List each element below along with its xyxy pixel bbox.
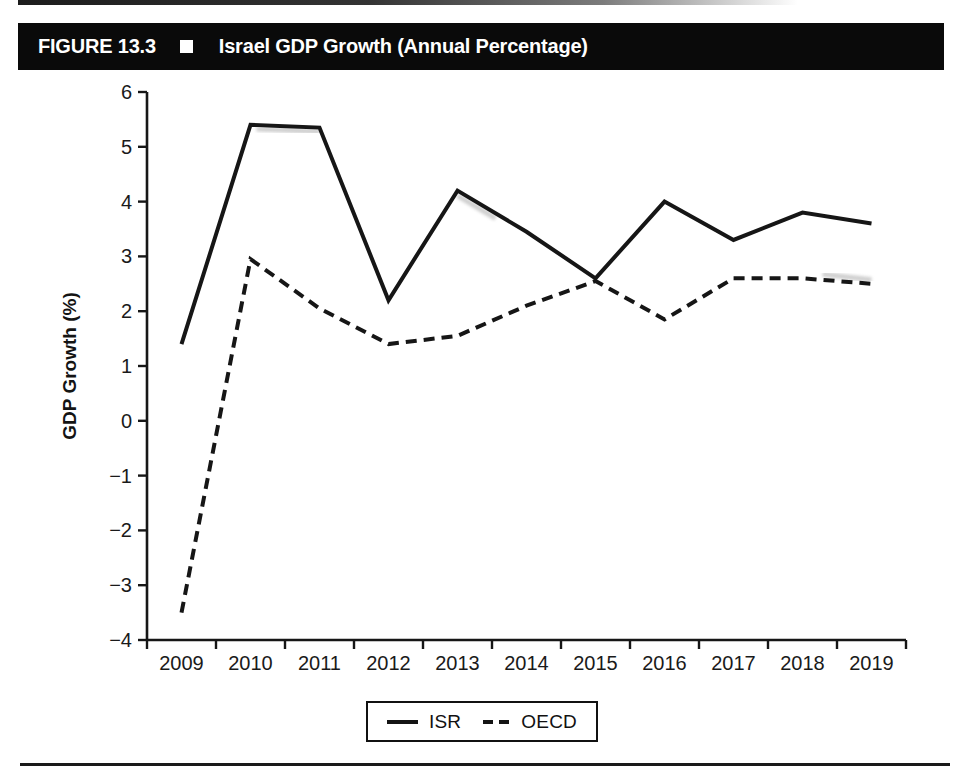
oecd-series-line [182,259,872,612]
y-tick-label: −1 [109,465,132,487]
chart-legend: ISR OECD [366,701,598,742]
x-tick-label: 2011 [298,652,341,674]
x-tick-label: 2013 [435,652,480,674]
legend-label-isr: ISR [429,711,461,733]
legend-label-oecd: OECD [521,711,577,733]
y-tick-label: 3 [121,245,132,267]
legend-item-isr: ISR [387,711,461,733]
y-tick-label: −4 [109,629,132,651]
y-tick-label: 1 [121,355,132,377]
y-axis-title: GDP Growth (%) [59,292,80,439]
x-tick-label: 2010 [228,652,273,674]
y-tick-label: 5 [121,136,132,158]
x-tick-label: 2015 [573,652,618,674]
y-tick-label: −2 [109,519,132,541]
figure-bottom-rule [20,763,950,766]
y-tick-label: 2 [121,300,132,322]
y-tick-label: 0 [121,410,132,432]
y-tick-label: 4 [121,191,132,213]
y-tick-label: 6 [121,81,132,103]
x-tick-label: 2009 [159,652,204,674]
gdp-growth-line-chart: −4−3−2−101234562009201020112012201320142… [0,0,966,700]
dashed-line-icon [483,720,509,724]
x-tick-label: 2016 [642,652,687,674]
x-tick-label: 2018 [780,652,825,674]
isr-series-line [182,125,872,344]
x-tick-label: 2012 [366,652,411,674]
scan-smudge [458,196,496,219]
scan-smudge [257,129,320,132]
x-tick-label: 2017 [711,652,756,674]
legend-item-oecd: OECD [461,711,577,733]
y-tick-label: −3 [109,574,132,596]
solid-line-icon [387,720,418,724]
x-tick-label: 2014 [504,652,549,674]
x-tick-label: 2019 [849,652,894,674]
